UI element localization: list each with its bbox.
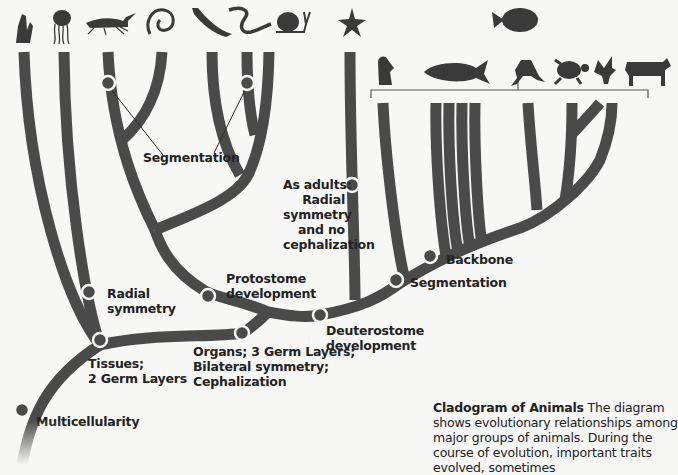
label-adults-line1: As adults: xyxy=(283,177,345,192)
branch-fish-3 xyxy=(462,103,470,248)
grasshopper-icon xyxy=(86,13,136,35)
label-segmentation-chordate: Segmentation xyxy=(410,275,507,290)
flatworm-icon xyxy=(192,8,232,37)
node-backbone xyxy=(423,249,437,263)
trunk-fade xyxy=(0,420,60,465)
label-sea-star-adults: As adults: Radial symmetry and no cephal… xyxy=(283,177,345,252)
node-tissues xyxy=(93,333,107,347)
roundworm-icon xyxy=(148,10,173,34)
label-deuterostome: Deuterostome development xyxy=(326,323,424,353)
branch-turtle-bird xyxy=(565,103,572,200)
sea-star-icon xyxy=(338,8,366,37)
label-adults-line3: symmetry xyxy=(283,207,345,222)
label-radial-line1: Radial xyxy=(107,286,176,301)
snail-icon xyxy=(276,12,310,32)
figure-caption: Cladogram of Animals The diagram shows e… xyxy=(433,400,678,475)
caption-title: Cladogram of Animals xyxy=(433,400,584,415)
node-multicellularity xyxy=(15,403,29,417)
label-radial-symmetry: Radial symmetry xyxy=(107,286,176,316)
segmented-worm-icon xyxy=(229,8,271,32)
label-adults-line5: cephalization xyxy=(283,237,345,252)
bird-icon xyxy=(594,56,616,84)
label-radial-line2: symmetry xyxy=(107,301,176,316)
branch-frog xyxy=(528,103,537,210)
label-tissues-line2: 2 Germ Layers xyxy=(88,371,187,386)
lamprey-icon xyxy=(378,56,394,85)
label-tissues-line1: Tissues; xyxy=(88,356,187,371)
branch-fish-4 xyxy=(475,103,482,244)
sunfish-icon xyxy=(492,8,538,32)
node-segmentation-worm xyxy=(240,76,254,90)
vertebrate-bracket xyxy=(371,90,648,98)
label-adults-line2: Radial xyxy=(283,192,345,207)
frog-icon xyxy=(511,60,545,86)
label-organs-line2: Bilateral symmetry; xyxy=(193,359,355,374)
cow-icon xyxy=(625,58,671,86)
node-organs xyxy=(235,326,249,340)
label-protostome: Protostome development xyxy=(226,271,316,301)
branch-grasshopper xyxy=(108,52,155,230)
label-tissues: Tissues; 2 Germ Layers xyxy=(88,356,187,386)
branch-roundworm xyxy=(122,52,162,140)
sponge-icon xyxy=(16,14,33,43)
label-organs-line3: Cephalization xyxy=(193,374,355,389)
jellyfish-icon xyxy=(53,10,71,44)
label-protostome-line2: development xyxy=(226,286,316,301)
branch-segmented-worm xyxy=(247,52,255,135)
branch-sea-star xyxy=(350,52,355,300)
node-radial-symmetry xyxy=(82,285,96,299)
label-adults-line4: and no xyxy=(283,222,345,237)
label-segmentation-invertebrate: Segmentation xyxy=(143,150,240,165)
node-segmentation-chordate xyxy=(389,273,403,287)
branch-lamprey xyxy=(383,103,405,280)
label-backbone: Backbone xyxy=(446,252,513,267)
label-protostome-line1: Protostome xyxy=(226,271,316,286)
node-protostome xyxy=(201,289,215,303)
node-segmentation-grasshopper xyxy=(101,76,115,90)
node-deuterostome xyxy=(313,308,327,322)
label-deuterostome-line1: Deuterostome xyxy=(326,323,424,338)
turtle-icon xyxy=(555,60,589,84)
label-deuterostome-line2: development xyxy=(326,338,424,353)
bony-fish-icon xyxy=(424,60,490,84)
